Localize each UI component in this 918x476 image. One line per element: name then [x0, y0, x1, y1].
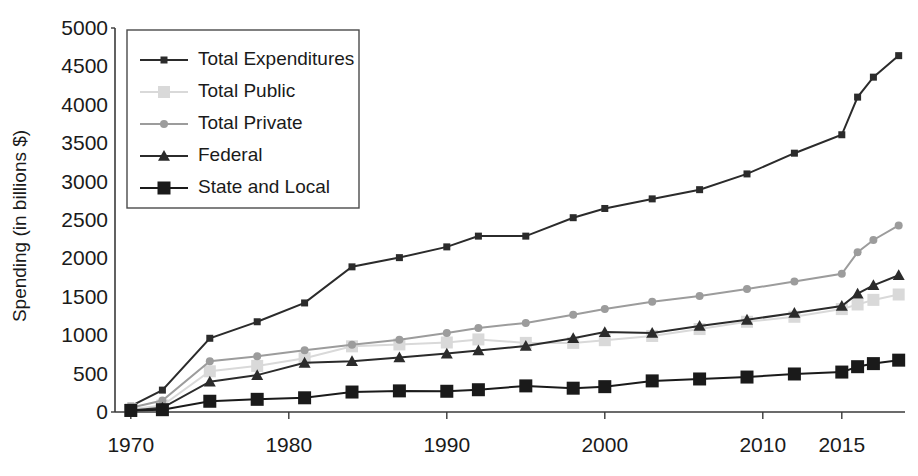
data-point-marker: [522, 319, 530, 327]
legend-label[interactable]: Total Public: [198, 80, 295, 101]
data-point-marker: [440, 385, 453, 398]
series-total-public: [125, 288, 905, 415]
data-point-marker: [158, 86, 170, 98]
y-axis-ticks: 0500100015002000250030003500400045005000: [61, 16, 115, 423]
data-point-marker: [301, 299, 308, 306]
x-tick-label: 2015: [818, 433, 865, 456]
chart-canvas: Spending (in billions $) 050010001500200…: [0, 0, 918, 476]
data-point-marker: [696, 292, 704, 300]
line-chart: Spending (in billions $) 050010001500200…: [0, 0, 918, 476]
legend-label[interactable]: Total Expenditures: [198, 48, 354, 69]
data-point-marker: [854, 94, 861, 101]
data-point-marker: [160, 120, 168, 128]
data-point-marker: [790, 277, 798, 285]
data-point-marker: [743, 285, 751, 293]
x-axis-ticks: 197019801990200020102015: [107, 412, 865, 456]
data-point-marker: [348, 341, 356, 349]
data-point-marker: [156, 403, 169, 416]
data-point-marker: [791, 150, 798, 157]
y-axis-title: Spending (in billions $): [9, 130, 30, 322]
data-point-marker: [854, 248, 862, 256]
y-tick-label: 0: [96, 400, 108, 423]
x-tick-label: 2010: [739, 433, 786, 456]
data-point-marker: [349, 263, 356, 270]
series-line: [131, 225, 899, 407]
data-point-marker: [254, 318, 261, 325]
legend-label[interactable]: State and Local: [198, 176, 330, 197]
data-point-marker: [696, 186, 703, 193]
data-point-marker: [851, 360, 864, 373]
data-point-marker: [852, 298, 864, 310]
data-point-marker: [474, 324, 482, 332]
data-point-marker: [301, 346, 309, 354]
data-point-marker: [569, 311, 577, 319]
data-point-marker: [441, 336, 453, 348]
data-point-marker: [443, 243, 450, 250]
data-point-marker: [475, 233, 482, 240]
x-tick-label: 2000: [581, 433, 628, 456]
y-tick-label: 4500: [61, 54, 108, 77]
data-point-marker: [893, 269, 905, 280]
y-tick-label: 1000: [61, 323, 108, 346]
data-point-marker: [852, 288, 864, 299]
data-point-marker: [648, 298, 656, 306]
chart-legend: Total ExpendituresTotal PublicTotal Priv…: [127, 30, 359, 208]
series-line: [131, 295, 899, 410]
y-tick-label: 3000: [61, 170, 108, 193]
data-point-marker: [867, 294, 879, 306]
data-point-marker: [251, 393, 264, 406]
y-tick-label: 2500: [61, 208, 108, 231]
data-point-marker: [346, 386, 359, 399]
data-point-marker: [395, 336, 403, 344]
legend-label[interactable]: Total Private: [198, 112, 303, 133]
data-point-marker: [649, 195, 656, 202]
data-point-marker: [598, 380, 611, 393]
data-point-marker: [838, 131, 845, 138]
data-point-marker: [892, 354, 905, 367]
data-point-marker: [472, 333, 484, 345]
series-state-and-local: [124, 354, 905, 417]
data-point-marker: [893, 288, 905, 300]
data-point-marker: [895, 52, 902, 59]
data-point-marker: [161, 57, 168, 64]
data-point-marker: [693, 372, 706, 385]
data-point-marker: [838, 270, 846, 278]
data-point-marker: [396, 254, 403, 261]
x-tick-label: 1990: [423, 433, 470, 456]
data-point-marker: [567, 382, 580, 395]
data-point-marker: [206, 335, 213, 342]
data-point-marker: [298, 391, 311, 404]
series-total-private: [127, 221, 903, 411]
data-point-marker: [835, 366, 848, 379]
data-point-marker: [895, 221, 903, 229]
data-point-marker: [204, 365, 216, 377]
y-tick-label: 4000: [61, 93, 108, 116]
y-tick-label: 3500: [61, 131, 108, 154]
data-point-marker: [203, 395, 216, 408]
data-point-marker: [393, 384, 406, 397]
data-point-marker: [646, 374, 659, 387]
data-point-marker: [124, 404, 137, 417]
data-point-marker: [570, 214, 577, 221]
y-tick-label: 5000: [61, 16, 108, 39]
data-point-marker: [519, 379, 532, 392]
data-point-marker: [158, 182, 171, 195]
data-point-marker: [253, 352, 261, 360]
x-tick-label: 1970: [107, 433, 154, 456]
data-point-marker: [472, 383, 485, 396]
data-point-marker: [869, 236, 877, 244]
y-tick-label: 2000: [61, 246, 108, 269]
data-point-marker: [206, 357, 214, 365]
data-point-marker: [601, 305, 609, 313]
data-point-marker: [744, 170, 751, 177]
data-point-marker: [443, 329, 451, 337]
data-point-marker: [870, 74, 877, 81]
y-tick-label: 500: [73, 362, 108, 385]
data-point-marker: [522, 233, 529, 240]
data-point-marker: [159, 387, 166, 394]
x-tick-label: 1980: [265, 433, 312, 456]
data-point-marker: [601, 205, 608, 212]
legend-label[interactable]: Federal: [198, 144, 262, 165]
data-point-marker: [867, 357, 880, 370]
y-tick-label: 1500: [61, 285, 108, 308]
